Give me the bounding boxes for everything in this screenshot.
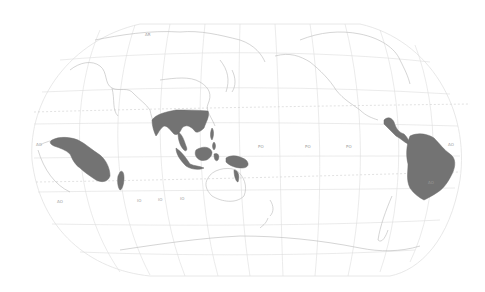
label-io-2: IO xyxy=(158,197,162,202)
label-po-1: PO xyxy=(258,144,264,149)
label-south-atlantic: AO xyxy=(57,199,63,204)
label-east: AO xyxy=(428,180,434,185)
label-atlantic: AO xyxy=(448,142,454,147)
world-map: AO AR AO IO IO IO PO PO PO AO AO xyxy=(0,0,485,292)
label-io-1: IO xyxy=(137,198,141,203)
label-io-3: IO xyxy=(180,196,184,201)
map-outline xyxy=(32,24,462,276)
label-north: AR xyxy=(145,32,151,37)
label-po-2: PO xyxy=(305,144,311,149)
label-po-3: PO xyxy=(346,144,352,149)
label-west: AO xyxy=(36,142,42,147)
